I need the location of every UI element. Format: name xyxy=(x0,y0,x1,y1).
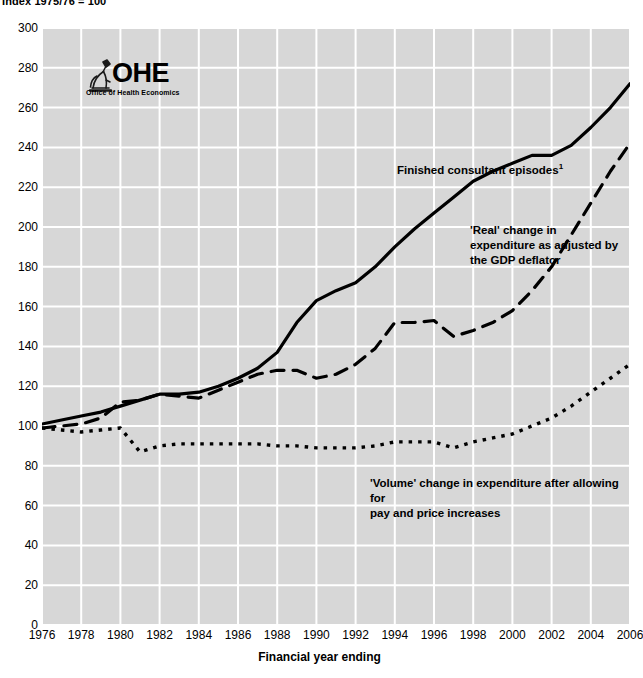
x-axis-tick-label: 1982 xyxy=(146,628,173,642)
annotation-volume-change: 'Volume' change in expenditure after all… xyxy=(370,476,630,521)
x-axis-tick-label: 2006 xyxy=(617,628,643,642)
ohe-subtitle: Office of Health Economics xyxy=(86,89,180,96)
ohe-logo: OHE Office of Health Economics xyxy=(84,58,190,102)
x-axis-tick-label: 1978 xyxy=(68,628,95,642)
series-line-dotted xyxy=(42,364,630,452)
x-axis-tick-label: 1990 xyxy=(303,628,330,642)
x-axis-tick-label: 1980 xyxy=(107,628,134,642)
ohe-wordmark: OHE xyxy=(112,60,169,87)
y-axis-tick-label: 20 xyxy=(2,579,38,591)
y-axis-tick-label: 240 xyxy=(2,141,38,153)
index-caption: Index 1975/76 = 100 xyxy=(2,0,106,7)
x-axis-title: Financial year ending xyxy=(0,650,639,664)
y-axis-tick-label: 260 xyxy=(2,102,38,114)
y-axis-tick-label: 220 xyxy=(2,181,38,193)
y-axis-tick-label: 200 xyxy=(2,221,38,233)
x-axis-tick-label: 2002 xyxy=(538,628,565,642)
x-axis-tick-label: 1986 xyxy=(225,628,252,642)
y-axis-tick-label: 140 xyxy=(2,340,38,352)
y-axis-tick-label: 120 xyxy=(2,380,38,392)
x-axis-tick-label: 1988 xyxy=(264,628,291,642)
annotation-finished-consultant-episodes: Finished consultant episodes1 xyxy=(397,159,563,178)
y-axis-tick-label: 80 xyxy=(2,460,38,472)
x-axis-tick-label: 1994 xyxy=(381,628,408,642)
y-axis-tick-label: 160 xyxy=(2,301,38,313)
x-axis-tick-label: 1992 xyxy=(342,628,369,642)
y-axis-tick-label: 300 xyxy=(2,22,38,34)
y-axis: 0204060801001201401601802002202402602803… xyxy=(0,28,38,625)
x-axis-tick-label: 1984 xyxy=(185,628,212,642)
x-axis-tick-label: 1998 xyxy=(460,628,487,642)
annotation-real-change: 'Real' change in expenditure as adjusted… xyxy=(470,223,618,268)
y-axis-tick-label: 100 xyxy=(2,420,38,432)
y-axis-tick-label: 40 xyxy=(2,539,38,551)
x-axis-tick-label: 1996 xyxy=(421,628,448,642)
x-axis: 1976197819801982198419861988199019921994… xyxy=(42,628,630,646)
y-axis-tick-label: 280 xyxy=(2,62,38,74)
x-axis-tick-label: 1976 xyxy=(29,628,56,642)
data-series-group xyxy=(42,28,630,625)
series-line-dashed xyxy=(42,143,630,428)
annotation-fce-footnote-marker: 1 xyxy=(559,162,563,171)
x-axis-tick-label: 2004 xyxy=(577,628,604,642)
plot-area: OHE Office of Health Economics Finished … xyxy=(42,28,630,625)
annotation-fce-text: Finished consultant episodes xyxy=(397,164,559,176)
x-axis-tick-label: 2000 xyxy=(499,628,526,642)
y-axis-tick-label: 60 xyxy=(2,500,38,512)
y-axis-tick-label: 180 xyxy=(2,261,38,273)
